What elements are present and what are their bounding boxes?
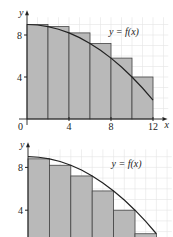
rectangle-bar <box>27 25 48 120</box>
curve-label: y = f(x) <box>110 158 142 170</box>
rectangle-bar <box>92 191 113 237</box>
rectangle-bar <box>28 159 49 237</box>
x-tick-label: 12 <box>148 121 158 132</box>
y-axis-label: y <box>19 139 25 150</box>
rectangle-bar <box>132 77 153 119</box>
y-tick-label: 8 <box>17 30 22 41</box>
rectangle-bar <box>71 176 92 237</box>
y-axis-label: y <box>18 7 24 18</box>
rectangle-bar <box>69 33 90 119</box>
x-tick-label: 4 <box>67 121 72 132</box>
y-axis-arrow <box>25 10 29 15</box>
y-tick-label: 4 <box>17 72 22 83</box>
x-axis-label: x <box>163 119 169 130</box>
rectangle-bar <box>49 165 70 237</box>
y-tick-label: 8 <box>18 162 23 173</box>
rectangle-bar <box>90 43 111 119</box>
rectangle-bar <box>48 27 69 119</box>
chart-right-endpoint: y48y = f(x) <box>0 132 173 237</box>
chart-left-endpoint: yx0481248y = f(x) <box>0 0 173 132</box>
rectangle-bar <box>114 210 135 237</box>
y-axis-arrow <box>26 142 30 147</box>
curve-label: y = f(x) <box>108 26 140 38</box>
x-tick-label: 8 <box>109 121 114 132</box>
rectangle-bar <box>135 234 156 237</box>
x-tick-label: 0 <box>18 121 23 132</box>
y-tick-label: 4 <box>18 205 23 216</box>
